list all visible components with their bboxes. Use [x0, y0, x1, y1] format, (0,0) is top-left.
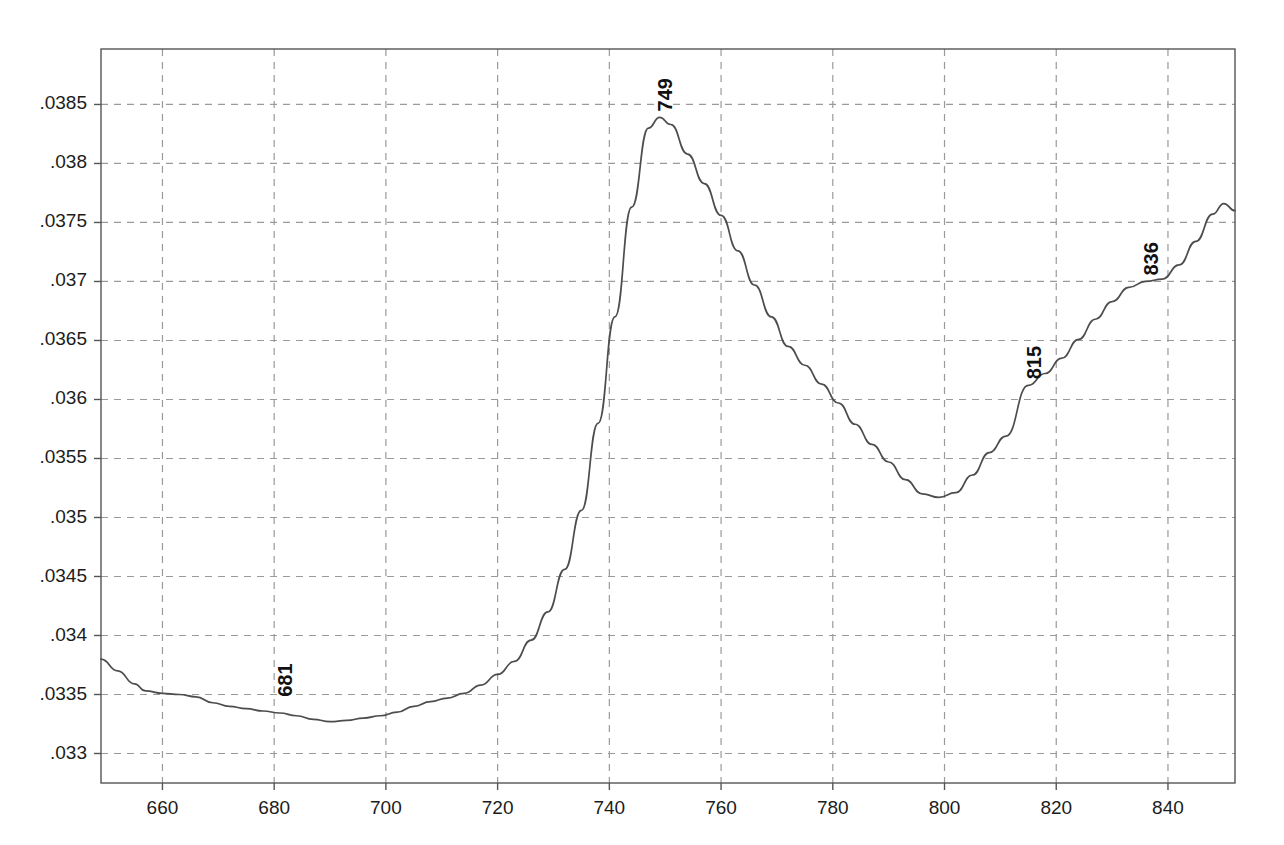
y-tick-label-3: .0345 — [39, 565, 87, 586]
x-tick-label-8: 820 — [1040, 797, 1072, 818]
chart-background — [0, 0, 1284, 845]
y-tick-label-1: .0335 — [39, 683, 87, 704]
x-tick-label-6: 780 — [817, 797, 849, 818]
x-tick-label-5: 760 — [705, 797, 737, 818]
y-tick-label-7: .0365 — [39, 328, 87, 349]
x-tick-label-7: 800 — [929, 797, 961, 818]
y-tick-label-9: .0375 — [39, 210, 87, 231]
y-tick-label-2: .034 — [50, 624, 87, 645]
y-tick-label-5: .0355 — [39, 446, 87, 467]
x-tick-label-4: 740 — [593, 797, 625, 818]
y-tick-label-11: .0385 — [39, 92, 87, 113]
x-tick-label-0: 660 — [147, 797, 179, 818]
y-tick-label-4: .035 — [50, 506, 87, 527]
annotation-label-815: 815 — [1023, 346, 1045, 379]
y-tick-label-6: .036 — [50, 387, 87, 408]
annotation-label-749: 749 — [654, 78, 676, 111]
x-tick-label-2: 700 — [370, 797, 402, 818]
x-tick-label-9: 840 — [1152, 797, 1184, 818]
y-tick-label-8: .037 — [50, 269, 87, 290]
y-tick-label-10: .038 — [50, 151, 87, 172]
x-tick-label-3: 720 — [482, 797, 514, 818]
y-tick-label-0: .033 — [50, 742, 87, 763]
annotation-label-836: 836 — [1140, 242, 1162, 275]
x-tick-label-1: 680 — [258, 797, 290, 818]
annotation-label-681: 681 — [274, 663, 296, 696]
line-chart: .033.0335.034.0345.035.0355.036.0365.037… — [0, 0, 1284, 845]
chart-container: .033.0335.034.0345.035.0355.036.0365.037… — [0, 0, 1284, 845]
